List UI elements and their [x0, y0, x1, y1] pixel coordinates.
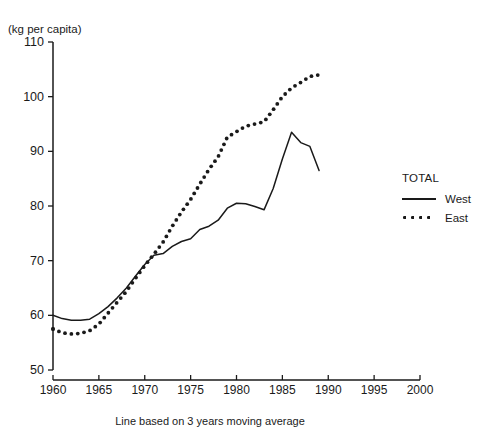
series-line-west [53, 132, 319, 320]
series-dot [111, 306, 115, 310]
x-axis-tick-label: 1985 [269, 383, 296, 397]
series-dot [213, 159, 217, 163]
series-dot [161, 240, 165, 244]
y-axis-tick-label: 70 [30, 254, 44, 268]
x-axis-tick-label: 1990 [315, 383, 342, 397]
series-dot [222, 142, 226, 146]
legend-swatch-solid-line-icon [402, 194, 436, 204]
series-dot [98, 321, 102, 325]
chart-container: (kg per capita) 506070809010011019601965… [0, 0, 485, 442]
x-axis-tick-label: 1995 [361, 383, 388, 397]
y-axis-tick-label: 60 [30, 308, 44, 322]
series-dot [264, 118, 268, 122]
series-dot [259, 121, 263, 125]
series-dot [199, 181, 203, 185]
series-dot [142, 265, 146, 269]
series-dot [196, 186, 200, 190]
series-dot [51, 327, 55, 331]
series-dot [178, 213, 182, 217]
series-dot [279, 97, 283, 101]
series-dot [127, 286, 131, 290]
x-axis-tick-label: 1960 [40, 383, 67, 397]
series-dot [189, 197, 193, 201]
series-dot [150, 255, 154, 259]
series-dot [272, 107, 276, 111]
chart-legend: TOTAL West East [402, 172, 471, 229]
series-dot [209, 164, 213, 168]
series-dot [299, 81, 303, 85]
series-dot [168, 229, 172, 233]
series-dot [304, 77, 308, 81]
series-dot [164, 235, 168, 239]
series-dot [206, 170, 210, 174]
series-dot [293, 84, 297, 88]
series-dot [82, 330, 86, 334]
series-dot [310, 74, 314, 78]
series-dot [171, 223, 175, 227]
series-dot [241, 126, 245, 130]
series-dot [69, 332, 73, 336]
series-dots-east [51, 73, 320, 336]
series-dot [288, 88, 292, 92]
series-dot [230, 133, 234, 137]
series-dot [316, 73, 320, 77]
legend-item-east: East [402, 210, 471, 226]
series-dot [119, 296, 123, 300]
series-dot [134, 276, 138, 280]
y-axis-tick-label: 100 [23, 90, 44, 104]
series-dot [115, 301, 119, 305]
series-dot [192, 192, 196, 196]
series-dot [63, 331, 67, 335]
series-dot [246, 124, 250, 128]
series-dot [219, 148, 223, 152]
y-axis-tick-label: 80 [30, 199, 44, 213]
x-axis-tick-label: 1975 [177, 383, 204, 397]
series-dot [217, 154, 221, 158]
series-dot [235, 129, 239, 133]
series-dot [138, 270, 142, 274]
legend-swatch-dotted-line-icon [402, 213, 436, 223]
series-dot [275, 102, 279, 106]
legend-item-west: West [402, 191, 471, 207]
series-dot [88, 328, 92, 332]
y-axis-unit-label: (kg per capita) [8, 23, 82, 35]
series-dot [202, 175, 206, 179]
series-dot [157, 245, 161, 249]
series-dot [76, 332, 80, 336]
series-dot [225, 137, 229, 141]
series-dot [185, 202, 189, 206]
y-axis-tick-label: 110 [24, 35, 44, 49]
series-dot [130, 281, 134, 285]
y-axis-tick-label: 90 [30, 144, 44, 158]
legend-title: TOTAL [402, 172, 471, 184]
series-dot [106, 311, 110, 315]
series-dot [154, 250, 158, 254]
y-axis-tick-label: 50 [30, 363, 44, 377]
series-dot [123, 291, 127, 295]
series-dot [174, 218, 178, 222]
x-axis-tick-label: 1970 [131, 383, 158, 397]
series-dot [283, 92, 287, 96]
series-dot [146, 260, 150, 264]
legend-label-east: East [445, 212, 468, 224]
series-dot [57, 330, 61, 334]
series-dot [253, 122, 257, 126]
x-axis-tick-label: 1965 [86, 383, 113, 397]
x-axis-tick-label: 1980 [223, 383, 250, 397]
series-dot [102, 316, 106, 320]
x-axis-tick-label: 2000 [407, 383, 434, 397]
series-dot [182, 207, 186, 211]
series-dot [268, 112, 272, 116]
legend-label-west: West [445, 193, 471, 205]
chart-caption: Line based on 3 years moving average [0, 415, 420, 427]
series-dot [93, 325, 97, 329]
